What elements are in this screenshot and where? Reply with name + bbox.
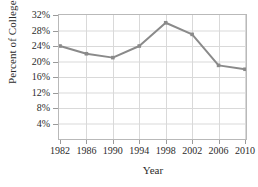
chart-figure: Percent of College Students Year 4%8%12%… bbox=[0, 0, 258, 187]
data-point-marker bbox=[217, 64, 221, 68]
figure-caption-cropped bbox=[8, 182, 158, 187]
y-axis-tick-mark bbox=[53, 15, 58, 16]
y-axis-tick-label: 28% bbox=[20, 26, 50, 36]
data-point-marker bbox=[59, 44, 62, 48]
y-axis-tick-mark bbox=[53, 93, 58, 94]
y-axis-tick-mark bbox=[53, 31, 58, 32]
y-axis-tick-mark bbox=[53, 124, 58, 125]
x-axis-tick-mark bbox=[219, 140, 220, 144]
y-axis-tick-label: 24% bbox=[20, 41, 50, 51]
y-axis-tick-mark bbox=[53, 108, 58, 109]
data-point-marker bbox=[85, 52, 89, 56]
y-axis-tick-label: 8% bbox=[20, 103, 50, 113]
x-axis-tick-mark bbox=[60, 140, 61, 144]
x-axis-tick-mark bbox=[166, 140, 167, 144]
x-axis-tick-mark bbox=[245, 140, 246, 144]
y-axis-tick-label: 4% bbox=[20, 119, 50, 129]
y-axis-tick-label: 20% bbox=[20, 57, 50, 67]
x-axis-tick-mark bbox=[192, 140, 193, 144]
plot-area bbox=[58, 14, 247, 140]
data-point-marker bbox=[111, 56, 115, 60]
x-axis-tick-mark bbox=[113, 140, 114, 144]
y-axis-tick-label: 12% bbox=[20, 88, 50, 98]
y-axis-tick-label: 16% bbox=[20, 72, 50, 82]
data-point-marker bbox=[137, 44, 141, 48]
x-axis-label: Year bbox=[58, 164, 248, 177]
y-axis-tick-mark bbox=[53, 77, 58, 78]
x-axis-tick-mark bbox=[139, 140, 140, 144]
x-axis-tick-label: 2010 bbox=[228, 146, 258, 156]
data-point-marker bbox=[243, 67, 246, 71]
figure-title-cropped bbox=[45, 0, 225, 5]
line-chart-svg bbox=[59, 15, 246, 139]
y-axis-tick-label: 32% bbox=[20, 10, 50, 20]
y-axis-tick-mark bbox=[53, 46, 58, 47]
data-point-marker bbox=[190, 33, 194, 37]
y-axis-label: Percent of College Students bbox=[5, 0, 19, 84]
x-axis-tick-mark bbox=[86, 140, 87, 144]
data-point-marker bbox=[164, 21, 168, 25]
y-axis-tick-mark bbox=[53, 62, 58, 63]
